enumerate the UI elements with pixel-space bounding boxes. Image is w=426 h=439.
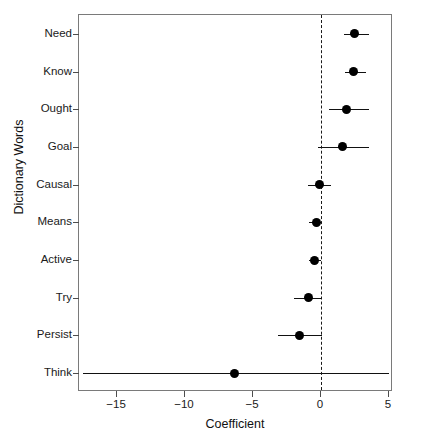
x-axis-tick [388,391,389,397]
y-axis-tick [73,72,79,73]
x-axis-tick [320,391,321,397]
y-axis-tick-label: Know [43,65,72,77]
x-axis-tick [184,391,185,397]
y-axis-tick-label: Need [45,27,73,39]
y-axis-tick-label: Goal [48,140,72,152]
point-estimate-marker [310,256,319,265]
y-axis-tick [73,185,79,186]
y-axis-tick [73,147,79,148]
y-axis-tick-label: Persist [37,328,72,340]
x-axis-tick-label: 5 [385,398,391,410]
y-axis-tick-label: Means [37,215,72,227]
y-axis-tick-label: Try [56,291,72,303]
y-axis-tick [73,335,79,336]
x-axis-title: Coefficient [78,417,392,431]
plot-panel [78,14,392,391]
x-axis-tick-label: −5 [245,398,258,410]
point-estimate-marker [230,369,239,378]
y-axis-tick-label: Ought [41,102,72,114]
x-axis-tick-label: 0 [317,398,323,410]
y-axis-tick [73,298,79,299]
zero-reference-line [321,15,322,390]
x-axis-tick [252,391,253,397]
y-axis-tick-labels: NeedKnowOughtGoalCausalMeansActiveTryPer… [0,14,72,391]
y-axis-tick [73,373,79,374]
y-axis-tick [73,260,79,261]
y-axis-tick [73,222,79,223]
y-axis-tick-label: Think [44,366,72,378]
y-axis-tick-label: Active [41,253,72,265]
point-estimate-marker [312,218,321,227]
point-estimate-marker [304,293,313,302]
coefficient-plot-figure: Dictionary Words NeedKnowOughtGoalCausal… [0,0,426,439]
point-estimate-marker [315,180,324,189]
point-estimate-marker [349,67,358,76]
point-estimate-marker [350,29,359,38]
x-axis-tick-label: −10 [174,398,194,410]
point-estimate-marker [295,331,304,340]
x-axis: −15−10−505 Coefficient [78,391,392,439]
y-axis-tick [73,109,79,110]
point-estimate-marker [342,105,351,114]
y-axis-tick-label: Causal [36,178,72,190]
y-axis-tick [73,34,79,35]
x-axis-tick-label: −15 [106,398,126,410]
x-axis-tick [116,391,117,397]
point-estimate-marker [338,142,347,151]
